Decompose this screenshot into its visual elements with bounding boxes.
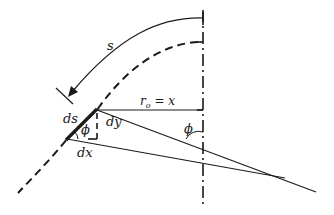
label-dy: dy bbox=[106, 114, 122, 129]
label-ds: ds bbox=[63, 111, 78, 126]
normal-line-upper bbox=[97, 110, 316, 192]
label-phi-axis: ϕ bbox=[184, 121, 193, 136]
label-s: s bbox=[107, 38, 114, 53]
label-dx: dx bbox=[77, 145, 93, 160]
normal-line-lower bbox=[67, 139, 285, 178]
label-r: ro = x bbox=[140, 94, 175, 110]
shell-geometry-diagram: s ro = x ds ϕ dy dx ϕ bbox=[0, 0, 334, 215]
meridian-arc-arrow bbox=[72, 18, 203, 92]
label-phi-small: ϕ bbox=[81, 122, 90, 137]
